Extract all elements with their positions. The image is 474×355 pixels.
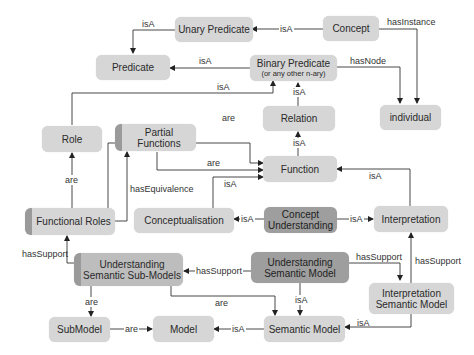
node-predicate: Predicate (96, 55, 170, 80)
node-relation: Relation (263, 106, 335, 131)
edge-label: isA (240, 214, 255, 224)
node-label: Functional Roles (36, 216, 110, 227)
node-label: Semantic Sub-Models (83, 270, 181, 281)
edge-label: isA (198, 56, 213, 66)
node-submodel: SubModel (49, 317, 110, 342)
node-label: Understanding (268, 220, 333, 231)
edge-label: isA (231, 324, 246, 334)
node-label: Binary Predicate (257, 58, 330, 69)
edge-label: isA (368, 171, 383, 181)
node-label: Understanding (99, 259, 164, 270)
ontology-diagram: Unary Predicate Concept Predicate Binary… (0, 0, 474, 355)
node-label: Function (281, 164, 319, 175)
node-understanding-semantic-model: UnderstandingSemantic Model (251, 252, 349, 283)
node-function: Function (263, 156, 337, 182)
node-label: Model (170, 324, 197, 335)
node-interpretation: Interpretation (374, 206, 448, 232)
node-conceptualisation: Conceptualisation (134, 208, 234, 233)
node-semantic-model: Semantic Model (264, 316, 345, 342)
node-concept-understanding: ConceptUnderstanding (264, 207, 337, 233)
edge-label: are (84, 297, 99, 307)
edge-label: hasNode (349, 56, 387, 66)
node-label: Partial Functions (122, 127, 196, 149)
edge-label: are (206, 158, 221, 168)
node-unary-predicate: Unary Predicate (175, 17, 253, 42)
node-individual: individual (380, 105, 441, 130)
node-label: Interpretation (382, 214, 441, 225)
node-label: individual (390, 112, 432, 123)
node-interpretation-semantic-model: InterpretationSemantic Model (369, 283, 454, 314)
edge-label: are (221, 113, 236, 123)
node-label: SubModel (57, 324, 102, 335)
edge-label: isA (292, 87, 307, 97)
node-partial-functions: Partial Functions (115, 124, 196, 151)
node-label: Interpretation (382, 288, 441, 299)
edge-label: isA (356, 318, 371, 328)
edge-label: are (124, 324, 139, 334)
edge-label: hasInstance (386, 17, 437, 27)
edge-label: hasSupport (414, 256, 462, 266)
edge-label: isA (216, 82, 231, 92)
node-label: Understanding (267, 257, 332, 268)
edge-label: isA (279, 24, 294, 34)
edge-label: isA (294, 295, 309, 305)
edge-label: isA (349, 214, 364, 224)
node-role: Role (42, 126, 102, 152)
edge-label: isA (141, 19, 156, 29)
node-understanding-semantic-sub-models: UnderstandingSemantic Sub-Models (74, 253, 183, 286)
edge-label: hasSupport (195, 266, 243, 276)
node-label: Semantic Model (376, 299, 448, 310)
node-label: Semantic Model (269, 324, 341, 335)
edge-label: isA (292, 138, 307, 148)
node-concept: Concept (323, 16, 379, 41)
node-label: Relation (281, 113, 318, 124)
node-label: Unary Predicate (178, 24, 250, 35)
node-label: Semantic Model (264, 268, 336, 279)
node-sublabel: (or any other n-ary) (257, 69, 330, 78)
node-label: Concept (332, 23, 369, 34)
node-label: Conceptualisation (144, 215, 224, 226)
node-functional-roles: Functional Roles (25, 208, 115, 235)
edge-label: hasEquivalence (129, 184, 195, 194)
edge-label: are (64, 175, 79, 185)
edge-label: hasSupport (21, 249, 69, 259)
edge-label: isA (223, 179, 238, 189)
node-label: Role (62, 134, 83, 145)
node-model: Model (153, 316, 214, 342)
node-label: Concept (282, 209, 319, 220)
edge-label: are (214, 298, 229, 308)
edge-label: hasSupport (355, 252, 403, 262)
node-binary-predicate: Binary Predicate(or any other n-ary) (250, 55, 337, 81)
node-label: Predicate (112, 62, 154, 73)
